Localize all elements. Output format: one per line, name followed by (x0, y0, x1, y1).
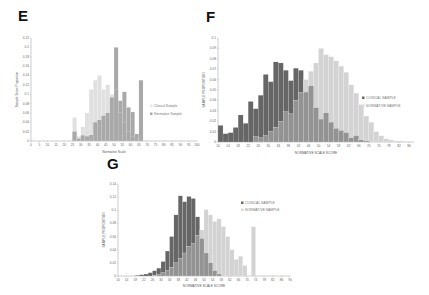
bar (364, 116, 369, 142)
x-tick-label: 58 (219, 278, 223, 282)
x-tick-label: 25 (71, 143, 75, 147)
x-tick-label: 10 (46, 143, 50, 147)
bar (251, 227, 255, 276)
x-tick-label: 70 (245, 278, 249, 282)
y-tick-label: 0.06 (110, 235, 116, 239)
x-tick-label: 70 (145, 143, 149, 147)
y-axis-label: SAMPLE PROPORTION (102, 212, 106, 248)
y-tick-label: 0.04 (110, 248, 116, 252)
x-tick-label: 74 (254, 278, 258, 282)
y-tick-label: 0.02 (23, 130, 29, 134)
bar (230, 250, 234, 276)
y-tick-label: 0.06 (23, 111, 29, 115)
bar (221, 227, 225, 276)
y-tick-label: 0 (27, 139, 29, 143)
bar (226, 237, 230, 276)
bar (234, 260, 238, 276)
bar (394, 141, 399, 142)
bar (243, 265, 247, 276)
x-tick-label: 90 (179, 143, 183, 147)
x-tick-label: 70 (367, 144, 371, 148)
bar (218, 125, 223, 142)
bar (148, 273, 152, 276)
chart-f: 00.010.020.030.040.050.060.070.080.090.1… (202, 36, 414, 155)
y-tick-label: 0.02 (210, 119, 216, 123)
x-tick-label: 86 (407, 144, 411, 148)
x-tick-label: 40 (96, 143, 100, 147)
x-tick-label: 38 (176, 278, 180, 282)
legend-swatch (241, 202, 244, 205)
bar (399, 141, 404, 142)
x-tick-label: 30 (159, 278, 163, 282)
bars (135, 196, 255, 276)
y-tick-label: 0.1 (112, 208, 117, 212)
x-tick-label: 26 (256, 144, 260, 148)
chart-g: 00.020.040.060.080.10.120.14101418222630… (102, 182, 292, 288)
y-tick-label: 0.09 (210, 46, 216, 50)
bar (243, 123, 248, 142)
x-tick-label: 78 (262, 278, 266, 282)
bar (404, 141, 409, 142)
x-tick-label: 46 (307, 144, 311, 148)
bar (263, 74, 268, 142)
bar (152, 271, 156, 276)
x-tick-label: 10 (216, 144, 220, 148)
bar (369, 122, 374, 142)
y-tick-label: 0.04 (23, 120, 29, 124)
legend-swatch (150, 113, 153, 116)
x-tick-label: 30 (79, 143, 83, 147)
x-tick-label: 54 (327, 144, 331, 148)
x-axis-label: NORMATIVE SCALE SCORE (295, 151, 337, 155)
y-tick-label: 0.14 (23, 73, 29, 77)
x-tick-label: 62 (228, 278, 232, 282)
y-tick-label: 0.12 (23, 83, 29, 87)
y-tick-label: 0.2 (25, 45, 30, 49)
bar (374, 132, 379, 142)
bar (144, 274, 148, 276)
x-tick-label: 22 (142, 278, 146, 282)
bar (135, 134, 139, 141)
y-tick-label: 0.07 (210, 67, 216, 71)
x-tick-label: 58 (337, 144, 341, 148)
y-tick-label: 0.01 (210, 130, 216, 134)
bar (258, 95, 263, 142)
x-tick-label: 20 (62, 143, 66, 147)
x-tick-label: 34 (168, 278, 172, 282)
legend-label: NORMATIVE SAMPLE (245, 208, 280, 212)
x-tick-label: 62 (347, 144, 351, 148)
x-tick-label: 26 (151, 278, 155, 282)
y-tick-label: 0.1 (212, 36, 217, 40)
legend-label: CLINICAL SAMPLE (245, 201, 276, 205)
x-tick-label: 22 (246, 144, 250, 148)
bar (349, 85, 354, 142)
x-tick-label: 45 (104, 143, 108, 147)
x-tick-label: 38 (287, 144, 291, 148)
legend-label: Clinical Sample (154, 104, 177, 108)
x-tick-label: 65 (137, 143, 141, 147)
x-tick-label: 18 (133, 278, 137, 282)
y-tick-label: 0.08 (110, 221, 116, 225)
bar (217, 219, 221, 276)
y-tick-label: 0.04 (210, 98, 216, 102)
legend-label: NORMATIVE SAMPLE (366, 104, 401, 108)
legend-swatch (362, 97, 365, 100)
x-tick-label: 34 (277, 144, 281, 148)
y-tick-label: 0.22 (23, 36, 29, 40)
x-tick-label: 82 (397, 144, 401, 148)
figure-canvas: 00.020.040.060.080.10.120.140.160.180.20… (0, 0, 429, 295)
legend-swatch (150, 105, 153, 108)
y-tick-label: 0.12 (110, 195, 116, 199)
bar (233, 127, 238, 142)
legend-swatch (241, 209, 244, 212)
x-tick-label: 14 (226, 144, 230, 148)
x-tick-label: 15 (54, 143, 58, 147)
y-tick-label: 0.14 (110, 182, 116, 186)
x-tick-label: 10 (116, 278, 120, 282)
x-tick-label: 46 (194, 278, 198, 282)
x-tick-label: 80 (162, 143, 166, 147)
bar (389, 140, 394, 142)
bar (213, 221, 217, 276)
y-tick-label: 0.05 (210, 88, 216, 92)
bar (354, 93, 359, 142)
x-tick-label: 35 (87, 143, 91, 147)
